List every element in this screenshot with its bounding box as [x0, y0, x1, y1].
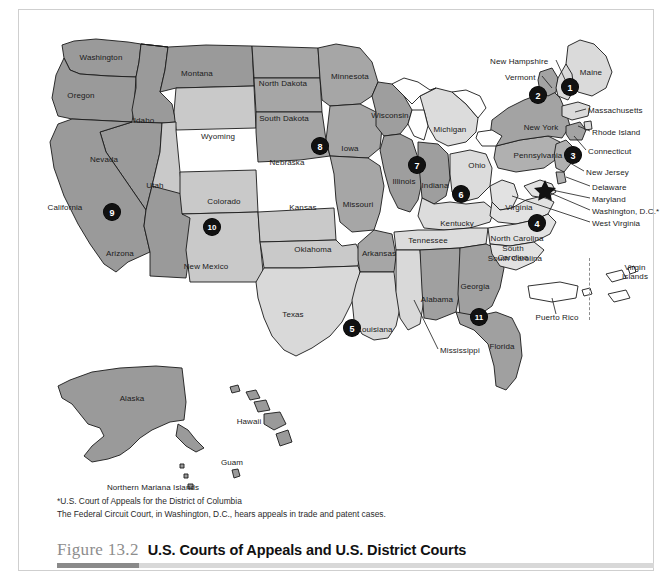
pr-vi-divider — [589, 258, 590, 320]
state-leader-label: New Hampshire — [490, 58, 548, 66]
state-label: Tennessee — [408, 237, 448, 245]
caption-accent-bar-dark — [57, 563, 139, 568]
footnote-2: The Federal Circuit Court, in Washington… — [57, 508, 577, 521]
state-label: Wyoming — [201, 133, 235, 141]
state-label: Louisiana — [357, 326, 392, 334]
state-label: Minnesota — [331, 73, 369, 81]
state-label-multiline: Northern Mariana Islands — [107, 483, 199, 492]
state-leader-label: Connecticut — [588, 148, 631, 156]
state-label-multiline: VirginIslands — [622, 263, 648, 281]
circuit-badge-3[interactable]: 3 — [565, 147, 582, 164]
figure-footnotes: *U.S. Court of Appeals for the District … — [57, 495, 577, 521]
state-label: New York — [524, 124, 559, 132]
state-label: Arkansas — [362, 250, 396, 258]
state-label: Ohio — [468, 162, 485, 170]
state-label: Texas — [282, 311, 303, 319]
state-leader-label: Washington, D.C.* — [592, 208, 659, 216]
puerto-rico-virgin-islands — [528, 266, 636, 302]
state-leader-label: Maryland — [592, 196, 626, 204]
state-label: Puerto Rico — [536, 314, 579, 322]
state-label: Montana — [181, 70, 213, 78]
state-leader-label: Rhode Island — [592, 129, 640, 137]
state-label: South Dakota — [259, 115, 309, 123]
state-leader-label: Vermont — [505, 74, 536, 82]
state-label: New Mexico — [184, 263, 229, 271]
state-label: Idaho — [134, 117, 155, 125]
footnote-1: *U.S. Court of Appeals for the District … — [57, 495, 577, 508]
state-leader-label: Mississippi — [440, 347, 480, 355]
state-label: Wisconsin — [371, 112, 408, 120]
state-label: Utah — [146, 182, 163, 190]
circuit-badge-4[interactable]: 4 — [529, 215, 546, 232]
state-label: Alabama — [421, 296, 453, 304]
circuit-badge-7[interactable]: 7 — [409, 157, 426, 174]
state-label: Iowa — [341, 145, 358, 153]
state-label: Alaska — [120, 395, 145, 403]
state-label: Guam — [221, 459, 243, 467]
state-leader-label: Massachusetts — [588, 107, 643, 115]
circuit-badge-1[interactable]: 1 — [562, 79, 579, 96]
state-label: Indiana — [422, 182, 449, 190]
state-leader-label: West Virginia — [592, 220, 640, 228]
state-label: Arizona — [106, 250, 134, 258]
state-label: North Carolina — [491, 235, 544, 243]
state-leader-label: Delaware — [592, 184, 627, 192]
circuit-badge-8[interactable]: 8 — [312, 138, 329, 155]
circuit-badge-2[interactable]: 2 — [530, 87, 547, 104]
circuit-badge-9[interactable]: 9 — [104, 204, 121, 221]
circuit-badge-5[interactable]: 5 — [344, 320, 361, 337]
state-label: Georgia — [460, 283, 489, 291]
figure-container: .st{stroke:#1a1a1a;stroke-width:.9;strok… — [0, 0, 672, 586]
circuit-badge-11[interactable]: 11 — [471, 309, 488, 326]
circuit-badge-10[interactable]: 10 — [204, 219, 221, 236]
state-label: California — [48, 204, 83, 212]
state-label: Washington — [80, 54, 123, 62]
state-label: Illinois — [392, 178, 415, 186]
state-label: Kansas — [289, 204, 316, 212]
state-label: Oregon — [67, 92, 94, 100]
figure-title: U.S. Courts of Appeals and U.S. District… — [148, 542, 467, 558]
state-label: Nevada — [90, 156, 118, 164]
circuit-badge-6[interactable]: 6 — [453, 186, 470, 203]
state-label: Oklahoma — [294, 246, 331, 254]
state-label: Kentucky — [440, 220, 474, 228]
figure-number: Figure 13.2 — [57, 540, 139, 560]
state-label: Virginia — [505, 204, 532, 212]
state-leader-label: New Jersey — [586, 169, 629, 177]
state-label: Michigan — [434, 126, 467, 134]
state-label: Hawaii — [237, 418, 262, 426]
state-label: Maine — [580, 69, 602, 77]
state-label: Colorado — [207, 198, 240, 206]
state-label: Nebraska — [269, 159, 304, 167]
state-label: North Dakota — [259, 80, 307, 88]
state-label: Missouri — [343, 201, 374, 209]
state-label: Pennsylvania — [514, 152, 563, 160]
state-label: Florida — [489, 343, 514, 351]
caption-accent-bar — [57, 563, 654, 568]
state-label-multiline: SouthCarolina — [498, 244, 529, 262]
figure-caption: Figure 13.2 U.S. Courts of Appeals and U… — [57, 540, 466, 560]
